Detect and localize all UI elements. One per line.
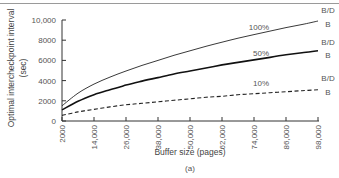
x-tick-label: 38,000 [154, 124, 163, 149]
x-tick-label: 86,000 [282, 124, 291, 149]
end-label-bd-10: B/D [321, 74, 335, 83]
y-tick-label: 6000 [38, 56, 56, 65]
series-line-10pct [62, 90, 318, 116]
y-axis-title: Optimal intercheckpoint interval [6, 9, 16, 128]
x-tick-label: 2000 [58, 124, 67, 142]
x-tick-label: 98,000 [314, 124, 323, 149]
y-tick-label: 0 [52, 117, 57, 126]
end-label-b-50: B [325, 51, 330, 60]
curves [62, 21, 318, 115]
series-label-10: 10% [253, 79, 269, 88]
y-tick-label: 4000 [38, 77, 56, 86]
end-label-bd-100: B/D [321, 6, 335, 15]
chart: 0200040006000800010,000200014,00026,0003… [0, 0, 339, 178]
series-label-100: 100% [249, 23, 269, 32]
y-axis-unit: (sec) [18, 58, 28, 77]
end-label-b-100: B [325, 20, 330, 29]
y-tick-label: 2000 [38, 97, 56, 106]
y-tick-label: 8000 [38, 36, 56, 45]
labels: 0200040006000800010,000200014,00026,0003… [32, 16, 323, 149]
series-line-50pct [62, 51, 318, 110]
x-tick-label: 26,000 [122, 124, 131, 149]
end-label-b-10: B [325, 88, 330, 97]
x-tick-label: 14,000 [90, 124, 99, 149]
series-label-50: 50% [253, 49, 269, 58]
x-axis-title: Buffer size (pages) [154, 147, 225, 157]
figure-caption: (a) [185, 164, 195, 173]
x-tick-label: 50,000 [186, 124, 195, 149]
y-tick-label: 10,000 [32, 16, 57, 25]
end-label-bd-50: B/D [321, 38, 335, 47]
x-tick-label: 74,000 [250, 124, 259, 149]
x-tick-label: 62,000 [218, 124, 227, 149]
